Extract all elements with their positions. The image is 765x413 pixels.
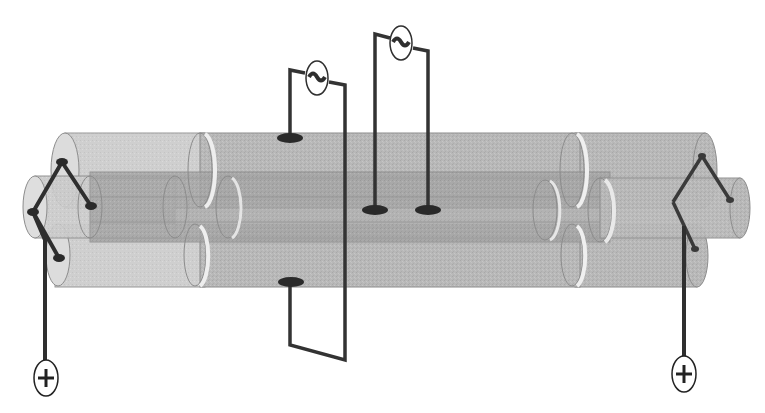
dc-terminal-left [34,360,58,396]
electrode-dot [27,208,39,216]
electrode-dot [691,246,699,252]
dc-terminal-right [672,356,696,392]
electrode-plate-bottom [278,277,304,287]
tube-electrode-diagram [0,0,765,413]
electrode-plate-center-a [362,205,388,215]
electrode-dot [56,158,68,166]
diagram-canvas: Transparent concentric cylinder tubes ar… [0,0,765,413]
electrode-plate-top [277,133,303,143]
electrode-dot [53,254,65,262]
electrode-plate-center-b [415,205,441,215]
electrode-dot [726,197,734,203]
ac-source-left [306,61,328,95]
ac-source-right [390,26,412,60]
electrode-dot [85,202,97,210]
electrode-dot [698,153,706,159]
